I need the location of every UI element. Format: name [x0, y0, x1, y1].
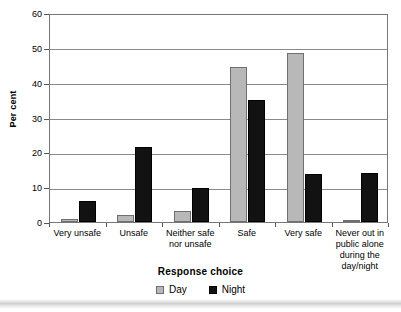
x-tick-label-line: Very unsafe — [49, 228, 106, 239]
y-tick-label: 0 — [2, 219, 42, 228]
x-tick-label-line: Neither safe — [162, 228, 219, 239]
x-tick-mark — [49, 223, 50, 227]
bar-day-4 — [287, 53, 304, 222]
x-tick-label-line: public alone — [332, 239, 389, 250]
x-tick-label-line: Very safe — [275, 228, 332, 239]
y-tick-label: 50 — [2, 45, 42, 54]
y-tick-label: 20 — [2, 149, 42, 158]
bar-day-2 — [174, 211, 191, 222]
x-tick-mark — [219, 223, 220, 227]
bar-day-0 — [61, 219, 78, 222]
y-tick-label: 10 — [2, 184, 42, 193]
bar-day-1 — [117, 215, 134, 222]
chart-legend: DayNight — [0, 284, 401, 295]
x-axis-title: Response choice — [0, 266, 401, 277]
y-tick-label: 60 — [2, 10, 42, 19]
gridline — [50, 154, 387, 155]
x-tick-label-line: Never out in — [332, 228, 389, 239]
legend-item-night[interactable]: Night — [209, 284, 245, 295]
bar-night-3 — [248, 100, 265, 222]
plot-area — [49, 14, 388, 223]
x-tick-label: Safe — [219, 228, 276, 239]
x-tick-mark — [275, 223, 276, 227]
x-tick-mark — [106, 223, 107, 227]
x-tick-label: Unsafe — [106, 228, 163, 239]
x-tick-mark — [388, 223, 389, 227]
x-tick-label: Very safe — [275, 228, 332, 239]
bar-night-1 — [135, 147, 152, 222]
gridline — [50, 49, 387, 50]
bar-chart-figure: Per cent 0102030405060 Very unsafeUnsafe… — [0, 0, 401, 312]
legend-label: Night — [222, 284, 245, 295]
scan-artifact — [0, 299, 401, 309]
x-tick-label-line: nor unsafe — [162, 239, 219, 250]
gridline — [50, 84, 387, 85]
legend-swatch-icon — [156, 286, 164, 294]
x-tick-mark — [162, 223, 163, 227]
x-tick-label-line: Unsafe — [106, 228, 163, 239]
x-tick-label-line: Safe — [219, 228, 276, 239]
bar-night-5 — [361, 173, 378, 222]
x-tick-label-line: during the — [332, 250, 389, 261]
bar-night-4 — [305, 174, 322, 222]
gridline — [50, 189, 387, 190]
bar-day-5 — [343, 220, 360, 222]
legend-label: Day — [169, 284, 187, 295]
bar-night-2 — [192, 188, 209, 222]
bar-day-3 — [230, 67, 247, 222]
x-tick-mark — [332, 223, 333, 227]
y-tick-label: 30 — [2, 115, 42, 124]
y-tick-label: 40 — [2, 80, 42, 89]
gridline — [50, 119, 387, 120]
bar-night-0 — [79, 201, 96, 222]
x-tick-label: Very unsafe — [49, 228, 106, 239]
x-tick-label: Neither safenor unsafe — [162, 228, 219, 250]
legend-swatch-icon — [209, 286, 217, 294]
legend-item-day[interactable]: Day — [156, 284, 187, 295]
